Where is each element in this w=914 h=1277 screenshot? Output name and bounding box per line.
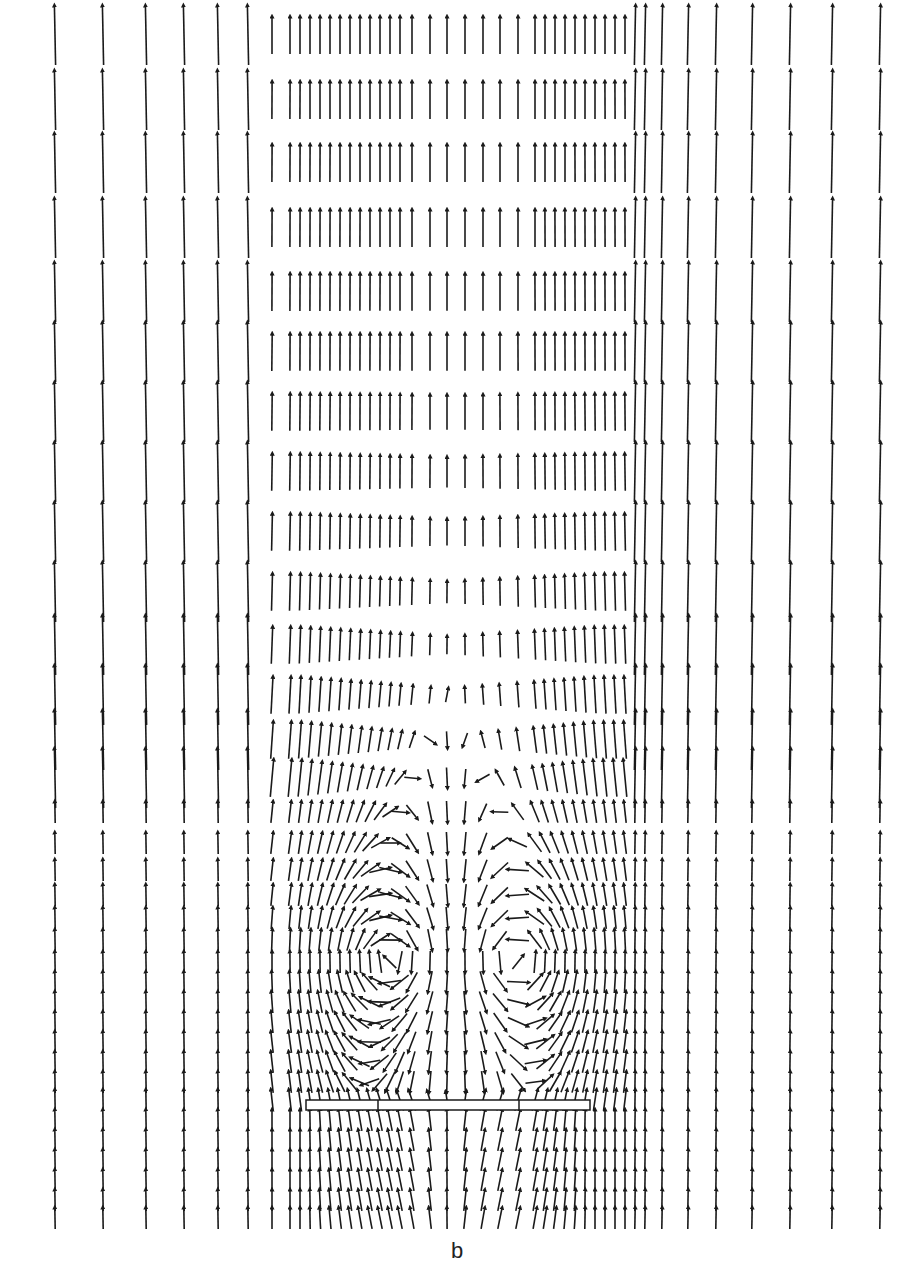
velocity-arrow bbox=[715, 5, 716, 65]
velocity-arrow bbox=[446, 1011, 447, 1033]
velocity-arrow bbox=[428, 769, 432, 786]
velocity-arrow bbox=[498, 1149, 502, 1171]
velocity-arrow bbox=[271, 859, 273, 881]
velocity-arrow bbox=[364, 931, 377, 949]
velocity-arrow bbox=[410, 1149, 414, 1171]
velocity-arrow bbox=[644, 442, 645, 502]
velocity-arrow bbox=[357, 766, 363, 790]
velocity-arrow bbox=[661, 562, 662, 622]
velocity-arrow bbox=[361, 1079, 379, 1085]
velocity-arrow bbox=[328, 724, 331, 756]
velocity-arrow bbox=[407, 1012, 417, 1032]
velocity-arrow bbox=[397, 1072, 404, 1093]
velocity-arrow bbox=[553, 725, 556, 754]
velocity-arrow bbox=[289, 1051, 292, 1073]
velocity-arrow bbox=[572, 885, 579, 906]
velocity-arrow bbox=[427, 908, 433, 929]
velocity-arrow bbox=[309, 929, 311, 951]
velocity-arrow bbox=[615, 453, 616, 491]
velocity-arrow bbox=[317, 1031, 323, 1052]
velocity-arrow bbox=[483, 634, 484, 657]
plate-obstacle bbox=[306, 1100, 590, 1110]
velocity-arrow bbox=[365, 802, 375, 822]
velocity-arrow bbox=[687, 502, 688, 562]
velocity-arrow bbox=[613, 759, 617, 796]
velocity-arrow bbox=[340, 515, 341, 549]
velocity-arrow bbox=[145, 442, 146, 502]
velocity-arrow bbox=[879, 442, 880, 502]
velocity-arrow bbox=[217, 502, 218, 562]
velocity-arrow bbox=[517, 683, 519, 708]
velocity-arrow bbox=[299, 929, 300, 951]
velocity-arrow bbox=[534, 951, 536, 973]
velocity-arrow bbox=[789, 562, 790, 622]
velocity-arrow bbox=[789, 70, 790, 130]
velocity-arrow bbox=[545, 576, 546, 608]
velocity-arrow bbox=[634, 133, 635, 193]
velocity-arrow bbox=[404, 777, 419, 778]
velocity-arrow bbox=[217, 133, 218, 193]
velocity-arrow bbox=[368, 1169, 372, 1191]
velocity-arrow bbox=[272, 971, 273, 993]
velocity-arrow bbox=[429, 1169, 432, 1191]
velocity-arrow bbox=[563, 801, 568, 822]
velocity-arrow bbox=[400, 633, 401, 657]
velocity-arrow bbox=[624, 801, 626, 823]
velocity-arrow bbox=[593, 1011, 597, 1033]
velocity-arrow bbox=[428, 832, 433, 853]
velocity-arrow bbox=[308, 1051, 312, 1073]
velocity-arrow bbox=[446, 929, 447, 951]
velocity-arrow bbox=[538, 994, 553, 1010]
velocity-arrow bbox=[614, 626, 615, 663]
velocity-arrow bbox=[593, 907, 596, 929]
velocity-arrow bbox=[428, 802, 432, 823]
velocity-arrow bbox=[585, 514, 586, 551]
velocity-arrow bbox=[271, 801, 273, 823]
velocity-arrow bbox=[428, 1031, 432, 1053]
velocity-arrow bbox=[516, 1169, 520, 1191]
velocity-arrow bbox=[661, 382, 662, 442]
velocity-arrow bbox=[879, 562, 880, 622]
velocity-arrow bbox=[492, 812, 509, 813]
velocity-arrow bbox=[353, 862, 367, 879]
velocity-arrow bbox=[479, 833, 487, 854]
velocity-arrow bbox=[356, 802, 364, 823]
velocity-arrow bbox=[573, 971, 577, 993]
velocity-arrow bbox=[614, 929, 615, 951]
velocity-arrow bbox=[298, 832, 301, 854]
velocity-arrow bbox=[271, 1031, 273, 1053]
velocity-arrow bbox=[339, 1169, 342, 1191]
velocity-arrow bbox=[379, 632, 380, 659]
velocity-arrow bbox=[751, 502, 752, 562]
velocity-arrow bbox=[555, 951, 556, 973]
velocity-arrow bbox=[634, 198, 635, 258]
plate-rectangle bbox=[306, 1100, 590, 1110]
velocity-arrow bbox=[217, 442, 218, 502]
velocity-arrow bbox=[625, 971, 626, 993]
velocity-arrow bbox=[498, 730, 501, 749]
velocity-arrow bbox=[595, 574, 596, 611]
velocity-arrow bbox=[573, 929, 576, 951]
velocity-arrow bbox=[300, 573, 301, 610]
velocity-arrow bbox=[183, 322, 184, 382]
velocity-arrow bbox=[582, 1051, 587, 1072]
velocity-arrow bbox=[644, 262, 645, 322]
velocity-arrow bbox=[464, 859, 466, 881]
velocity-arrow bbox=[563, 929, 567, 951]
velocity-arrow bbox=[543, 726, 546, 753]
velocity-arrow bbox=[310, 514, 311, 551]
velocity-arrow bbox=[634, 262, 635, 322]
velocity-arrow bbox=[498, 1129, 502, 1151]
velocity-arrow bbox=[318, 762, 322, 795]
velocity-arrow bbox=[603, 832, 606, 854]
velocity-arrow bbox=[481, 1109, 485, 1131]
velocity-arrow bbox=[687, 562, 688, 622]
velocity-arrow bbox=[398, 951, 402, 973]
velocity-arrow bbox=[593, 991, 596, 1013]
velocity-arrow bbox=[624, 1011, 626, 1033]
velocity-arrow bbox=[593, 1031, 597, 1053]
velocity-arrow bbox=[347, 929, 353, 950]
velocity-arrow bbox=[585, 574, 586, 610]
velocity-arrow bbox=[369, 682, 371, 708]
velocity-arrow bbox=[54, 198, 55, 258]
